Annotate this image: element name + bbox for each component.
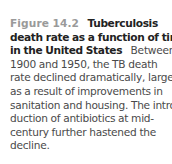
- caption-body-part-2: 1900 and 1950, the TB death: [10, 58, 172, 72]
- caption-line-1: Figure 14.2 Tuberculosis: [10, 17, 172, 31]
- figure-caption: Figure 14.2 Tuberculosis death rate as a…: [10, 17, 172, 153]
- caption-body-part-3: rate declined dramatically, largely: [10, 71, 172, 85]
- figure-title-part-1: Tuberculosis: [87, 17, 157, 29]
- figure-title-part-2: death rate as a function of time: [10, 31, 172, 43]
- figure-title-part-3: in the United States: [10, 44, 122, 56]
- caption-body-part-6: duction of antibiotics at mid-: [10, 112, 172, 126]
- caption-body-part-7: century further hastened the: [10, 126, 172, 140]
- caption-line-3: in the United States Between: [10, 44, 172, 58]
- caption-body-part-8: decline.: [10, 139, 172, 153]
- caption-body-part-1: Between: [131, 44, 172, 56]
- figure-label: Figure 14.2: [10, 17, 79, 29]
- caption-body-part-4: as a result of improvements in: [10, 85, 172, 99]
- caption-line-2: death rate as a function of time: [10, 31, 172, 45]
- caption-body-part-5: sanitation and housing. The intro-: [10, 99, 172, 113]
